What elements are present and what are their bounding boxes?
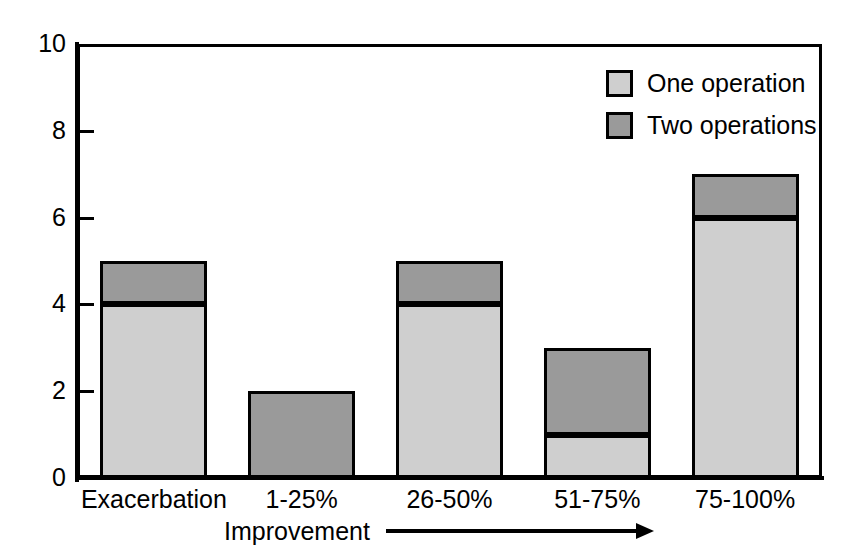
y-axis-tick-label-text: 10 [6,31,66,56]
right-arrow-icon [386,522,654,540]
x-axis-label-75-100: 75-100% [635,484,851,514]
y-axis-tick [77,130,94,133]
bar-segment-one-operation [544,435,651,478]
y-axis-tick [77,217,94,220]
legend-item-two-operations: Two operations [606,104,817,146]
bar-segment-one-operation [692,218,799,478]
bar-75-100 [692,174,799,478]
legend-item-one-operation: One operation [606,62,817,104]
legend-item-label: Two operations [647,112,817,139]
bar-segment-two-operations [544,348,651,435]
bar-segment-one-operation [396,304,503,478]
arrow-shaft [386,529,638,533]
y-axis-tick-label-text: 4 [6,291,66,316]
bar-segment-one-operation [100,304,207,478]
y-axis-tick-label: 6 [0,205,66,230]
bar-26-50 [396,261,503,478]
bar-51-75 [544,348,651,478]
y-axis-tick-label: 8 [0,118,66,143]
chart-figure: 0246810 Exacerbation1-25%26-50%51-75%75-… [0,0,851,559]
legend: One operationTwo operations [606,62,817,146]
x-axis-title: Improvement [224,515,654,547]
y-axis-tick [77,390,94,393]
y-axis-tick [77,303,94,306]
bar-segment-two-operations [692,174,799,217]
bar-1-25 [248,391,355,478]
y-axis-tick-label: 10 [0,31,66,56]
y-axis-tick-label: 4 [0,291,66,316]
legend-item-label: One operation [647,70,805,97]
bar-exacerbation [100,261,207,478]
arrow-head [636,523,654,539]
dark-gray-swatch [606,112,633,139]
x-axis-title-text: Improvement [224,516,370,546]
bar-segment-two-operations [396,261,503,304]
y-axis-tick-label-text: 6 [6,205,66,230]
y-axis-tick-label-text: 8 [6,118,66,143]
bar-segment-two-operations [100,261,207,304]
y-axis-line [75,42,79,482]
bar-segment-two-operations [248,391,355,478]
y-axis-tick-label: 2 [0,378,66,403]
y-axis-tick-label-text: 2 [6,378,66,403]
light-gray-swatch [606,70,633,97]
